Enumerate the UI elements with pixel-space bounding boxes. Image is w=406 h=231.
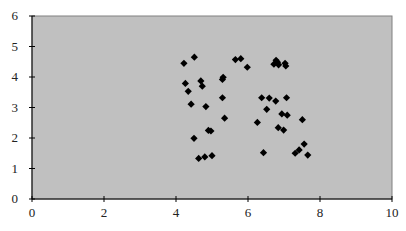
x-tick-label: 4 (173, 205, 180, 220)
y-tick-label: 1 (12, 161, 19, 176)
x-tick-label: 10 (386, 205, 399, 220)
x-axis-ticks: 0246810 (29, 196, 399, 220)
y-tick-label: 6 (12, 8, 19, 23)
y-tick-label: 3 (12, 100, 19, 115)
x-tick-label: 2 (101, 205, 108, 220)
y-tick-label: 4 (12, 69, 19, 84)
y-tick-label: 2 (12, 130, 19, 145)
plot-area (32, 16, 392, 199)
y-tick-label: 0 (12, 191, 19, 206)
x-tick-label: 8 (317, 205, 324, 220)
y-axis-ticks: 0123456 (12, 8, 36, 206)
scatter-chart: 0246810 0123456 (0, 0, 406, 231)
x-tick-label: 0 (29, 205, 36, 220)
x-tick-label: 6 (245, 205, 252, 220)
y-tick-label: 5 (12, 39, 19, 54)
